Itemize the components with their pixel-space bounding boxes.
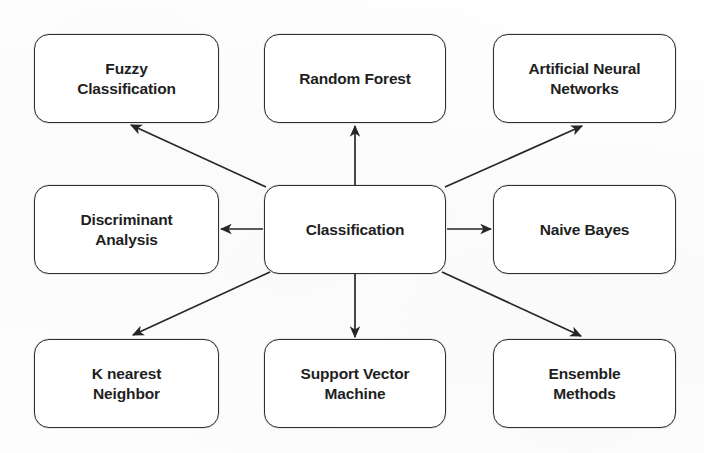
node-classification-center[interactable]: Classification [264, 185, 446, 274]
diagram-canvas: Fuzzy Classification Random Forest Artif… [0, 0, 704, 453]
node-support-vector-machine[interactable]: Support Vector Machine [264, 339, 446, 428]
node-naive-bayes-label: Naive Bayes [540, 220, 630, 240]
node-ensemble-methods[interactable]: Ensemble Methods [493, 339, 676, 428]
node-random-forest[interactable]: Random Forest [264, 34, 446, 123]
edge-classification-to-fuzzy-classification [131, 125, 266, 187]
node-k-nearest-neighbor[interactable]: K nearest Neighbor [34, 339, 219, 428]
node-artificial-neural-networks[interactable]: Artificial Neural Networks [493, 34, 676, 123]
node-discriminant-analysis[interactable]: Discriminant Analysis [34, 185, 219, 274]
node-discriminant-analysis-label: Discriminant Analysis [80, 210, 172, 250]
node-ensemble-methods-label: Ensemble Methods [548, 364, 620, 404]
node-fuzzy-classification-label: Fuzzy Classification [77, 59, 176, 99]
node-artificial-neural-networks-label: Artificial Neural Networks [528, 59, 640, 99]
node-random-forest-label: Random Forest [299, 69, 411, 89]
node-k-nearest-neighbor-label: K nearest Neighbor [92, 364, 161, 404]
node-classification-center-label: Classification [306, 220, 405, 240]
node-support-vector-machine-label: Support Vector Machine [301, 364, 410, 404]
edge-classification-to-k-nearest-neighbor [133, 272, 270, 335]
node-naive-bayes[interactable]: Naive Bayes [493, 185, 676, 274]
node-fuzzy-classification[interactable]: Fuzzy Classification [34, 34, 219, 123]
edge-classification-to-ensemble-methods [442, 272, 581, 336]
edge-classification-to-artificial-neural-networks [445, 126, 582, 187]
